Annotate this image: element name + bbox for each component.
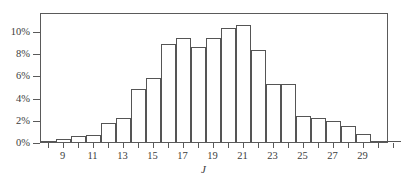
histogram-figure: 0%2%4%6%8%10% 911131517192123252729 J (0, 0, 407, 183)
histogram-bar (101, 123, 116, 142)
x-tick (228, 143, 229, 148)
y-tick-label: 2% (16, 116, 30, 127)
histogram-bar (71, 136, 86, 142)
x-axis-title: J (0, 163, 407, 175)
y-tick-label: 0% (16, 138, 30, 149)
y-tick (33, 32, 40, 33)
x-tick (393, 143, 394, 148)
x-tick (333, 143, 334, 148)
x-tick-label: 9 (60, 150, 65, 161)
x-tick (48, 143, 49, 148)
x-tick-label: 23 (267, 150, 278, 161)
x-tick (168, 143, 169, 148)
x-tick (243, 143, 244, 148)
x-tick (183, 143, 184, 148)
histogram-bar (191, 47, 206, 142)
x-tick (138, 143, 139, 148)
x-tick-label: 13 (117, 150, 128, 161)
histogram-bar (356, 134, 371, 142)
histogram-bar (56, 139, 71, 142)
histogram-bar (371, 141, 386, 142)
x-tick (123, 143, 124, 148)
histogram-bar (146, 78, 161, 142)
y-tick (33, 54, 40, 55)
x-tick-label: 25 (297, 150, 308, 161)
x-tick (198, 143, 199, 148)
plot-area (40, 13, 388, 143)
bar-series (41, 14, 387, 142)
histogram-bar (266, 84, 281, 142)
histogram-bar (41, 141, 56, 142)
x-tick (273, 143, 274, 148)
y-tick (33, 76, 40, 77)
histogram-bar (86, 135, 101, 142)
y-tick (33, 99, 40, 100)
histogram-bar (161, 44, 176, 142)
histogram-bar (131, 89, 146, 142)
x-tick (63, 143, 64, 148)
x-tick (363, 143, 364, 148)
x-tick (78, 143, 79, 148)
x-tick (93, 143, 94, 148)
histogram-bar (326, 121, 341, 142)
x-tick-label: 15 (147, 150, 158, 161)
x-tick-label: 19 (207, 150, 218, 161)
x-tick (348, 143, 349, 148)
x-tick (108, 143, 109, 148)
y-tick (33, 143, 40, 144)
x-tick-label: 29 (357, 150, 368, 161)
histogram-bar (341, 126, 356, 142)
histogram-bar (311, 118, 326, 142)
x-tick (258, 143, 259, 148)
x-tick (378, 143, 379, 148)
histogram-bar (296, 116, 311, 142)
x-tick-label: 21 (237, 150, 248, 161)
y-tick (33, 121, 40, 122)
y-tick-label: 6% (16, 71, 30, 82)
y-tick-label: 8% (16, 49, 30, 60)
x-tick-label: 17 (177, 150, 188, 161)
histogram-bar (176, 38, 191, 142)
x-tick (318, 143, 319, 148)
x-tick-label: 27 (327, 150, 338, 161)
x-tick-label: 11 (87, 150, 97, 161)
histogram-bar (281, 84, 296, 142)
histogram-bar (386, 141, 401, 142)
histogram-bar (251, 50, 266, 142)
y-tick-label: 4% (16, 94, 30, 105)
x-tick (213, 143, 214, 148)
histogram-bar (236, 25, 251, 142)
histogram-bar (116, 118, 131, 142)
x-tick (288, 143, 289, 148)
y-tick-label: 10% (11, 27, 30, 38)
histogram-bar (206, 38, 221, 142)
x-tick (303, 143, 304, 148)
histogram-bar (221, 28, 236, 142)
x-tick (153, 143, 154, 148)
